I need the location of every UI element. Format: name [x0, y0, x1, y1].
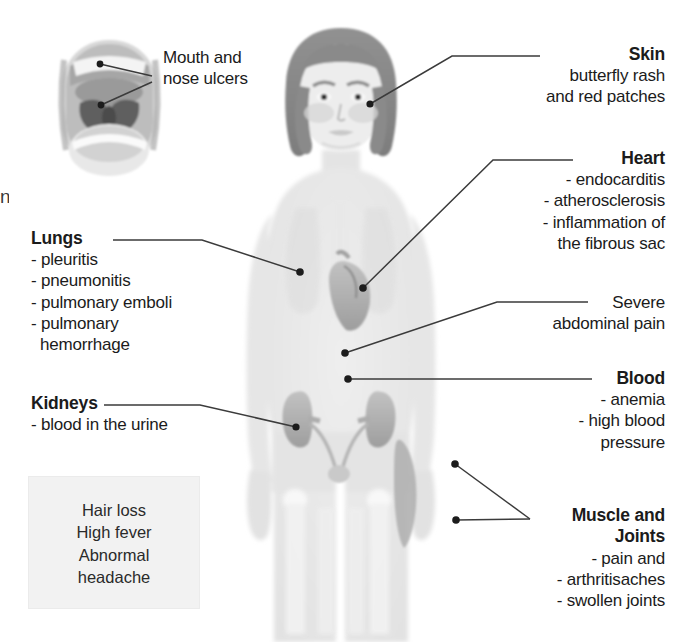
callout-mouth-line-1: nose ulcers — [163, 68, 313, 89]
callout-blood-line-2: pressure — [430, 432, 665, 453]
general-symptom-item: Abnormal — [29, 544, 199, 566]
callout-heart-line-0: - endocarditis — [400, 169, 665, 190]
callout-lungs-line-1: - pneumonitis — [31, 270, 261, 291]
callout-abdominal-line-0: Severe — [420, 292, 665, 313]
callout-blood-line-1: - high blood — [430, 410, 665, 431]
callout-lungs-line-2: - pulmonary emboli — [31, 292, 261, 313]
callout-heart-line-2: - inflammation of — [400, 212, 665, 233]
callout-lungs: Lungs - pleuritis - pneumonitis - pulmon… — [31, 228, 261, 355]
callout-muscle-joints: Muscle and Joints - pain and - arthritis… — [420, 505, 665, 611]
mouth-illustration — [61, 40, 157, 176]
callout-heart-title: Heart — [400, 148, 665, 169]
callout-lungs-title: Lungs — [31, 228, 261, 249]
callout-blood-title: Blood — [430, 368, 665, 389]
general-symptom-item: headache — [29, 566, 199, 588]
callout-muscle-line-1: - arthritisaches — [420, 569, 665, 590]
general-symptom-item: Hair loss — [29, 499, 199, 521]
callout-lungs-line-3: - pulmonary — [31, 313, 261, 334]
callout-lungs-line-0: - pleuritis — [31, 249, 261, 270]
callout-muscle-line-0: - pain and — [420, 548, 665, 569]
callout-muscle-title-0: Muscle and — [420, 505, 665, 526]
callout-mouth-line-0: Mouth and — [163, 47, 313, 68]
callout-kidneys-title: Kidneys — [31, 393, 261, 414]
lupus-symptom-diagram: Mouth and nose ulcers Skin butterfly ras… — [0, 0, 674, 642]
callout-skin-line-1: and red patches — [380, 86, 665, 107]
callout-skin-line-0: butterfly rash — [380, 65, 665, 86]
general-symptoms-list: Hair loss High fever Abnormal headache — [29, 499, 199, 589]
callout-abdominal-pain: Severe abdominal pain — [420, 292, 665, 334]
callout-heart: Heart - endocarditis - atherosclerosis -… — [400, 148, 665, 254]
callout-abdominal-line-1: abdominal pain — [420, 313, 665, 334]
page-edge-text-fragment: n — [0, 186, 9, 206]
callout-blood: Blood - anemia - high blood pressure — [430, 368, 665, 453]
general-symptoms-panel: Hair loss High fever Abnormal headache — [28, 476, 200, 609]
callout-muscle-line-2: - swollen joints — [420, 590, 665, 611]
callout-muscle-title-1: Joints — [420, 526, 665, 547]
callout-mouth-ulcers: Mouth and nose ulcers — [163, 47, 313, 89]
general-symptom-item: High fever — [29, 521, 199, 543]
callout-blood-line-0: - anemia — [430, 389, 665, 410]
callout-kidneys-line-0: - blood in the urine — [31, 414, 261, 435]
callout-heart-line-3: the fibrous sac — [400, 233, 665, 254]
callout-skin-title: Skin — [380, 44, 665, 65]
callout-skin: Skin butterfly rash and red patches — [380, 44, 665, 108]
callout-heart-line-1: - atherosclerosis — [400, 190, 665, 211]
callout-kidneys: Kidneys - blood in the urine — [31, 393, 261, 435]
callout-lungs-line-4: hemorrhage — [31, 334, 261, 355]
